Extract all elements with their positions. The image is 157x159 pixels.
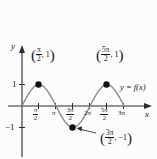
tick3-numerator: 3π xyxy=(66,107,74,113)
annotation-max-point-2: ( 5π 2 , 1) xyxy=(96,47,124,63)
paren-close: ) xyxy=(127,129,132,146)
max2-denominator: 2 xyxy=(101,54,110,62)
max2-numerator: 5π xyxy=(101,46,110,53)
x-tick-label-pi: π xyxy=(52,110,56,117)
plot-canvas xyxy=(0,0,157,159)
x-tick-label-5pi-over-2: 5π 2 xyxy=(100,108,108,122)
paren-close: ) xyxy=(118,46,123,63)
max-point-2 xyxy=(103,81,109,87)
x-tick-label-pi-over-2: π 2 xyxy=(33,108,38,122)
y-tick-label-1: 1 xyxy=(12,80,17,89)
min-point xyxy=(69,124,75,130)
sine-curve-figure: y x 1 −1 π 2 π 3π 2 2π 5π 2 3π ( π 2 , 1… xyxy=(0,0,157,159)
tick3-denominator: 2 xyxy=(66,114,74,121)
curve-function-label: y = f(x) xyxy=(120,83,146,92)
max1-denominator: 2 xyxy=(36,54,42,62)
min-denominator: 2 xyxy=(105,137,114,145)
x-tick-label-3pi-over-2: 3π 2 xyxy=(66,108,74,122)
x-axis xyxy=(8,103,152,109)
max-point-1 xyxy=(35,81,41,87)
x-tick-label-2pi: 2π xyxy=(84,110,91,117)
tick5-numerator: 5π xyxy=(100,107,108,113)
x-axis-label: x xyxy=(145,110,149,119)
annotation-max-point-1: ( π 2 , 1) xyxy=(31,47,55,63)
max1-numerator: π xyxy=(36,46,42,53)
annotation-min-point: ( 3π 2 , −1) xyxy=(100,130,132,146)
tick5-denominator: 2 xyxy=(100,114,108,121)
paren-close: ) xyxy=(50,46,55,63)
y-axis-label: y xyxy=(11,42,15,51)
y-axis-arrow xyxy=(19,45,25,53)
min-numerator: 3π xyxy=(105,129,114,136)
x-tick-label-3pi: 3π xyxy=(118,110,125,117)
tick1-denominator: 2 xyxy=(33,114,38,121)
y-tick-label-neg1: −1 xyxy=(5,123,15,132)
min-value: −1 xyxy=(118,133,127,142)
min-annotation-arrow xyxy=(77,126,97,133)
